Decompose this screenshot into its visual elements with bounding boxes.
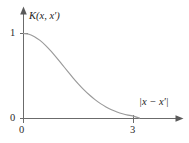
y-axis-label: K(x, x′) [29, 11, 60, 22]
kernel-function-figure: K(x, x′) |x − x′| 1 0 0 3 [0, 0, 189, 143]
y-axis-arrow-icon [20, 7, 27, 15]
x-axis-arrow-icon [176, 115, 184, 122]
x-tick-label-three: 3 [130, 125, 135, 136]
x-tick-label-zero: 0 [19, 125, 24, 136]
x-axis-label: |x − x′| [139, 97, 169, 108]
kernel-curve [24, 34, 140, 119]
y-tick-label-one: 1 [10, 28, 15, 39]
x-axis-label-text: |x − x′| [139, 96, 169, 107]
y-axis-label-text: K(x, x′) [29, 10, 60, 21]
y-tick-label-zero: 0 [10, 113, 15, 124]
